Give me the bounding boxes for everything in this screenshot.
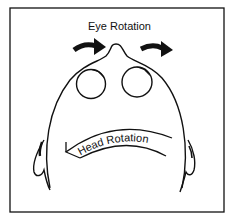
right-eye-rotation-arrow-icon: [141, 41, 173, 57]
left-eye-rotation-arrow-icon: [74, 38, 106, 55]
figure-frame: [10, 8, 224, 212]
head-rotation-label: Head Rotation: [76, 131, 150, 157]
eye-rotation-label: Eye Rotation: [88, 20, 151, 32]
left-ear-shade: [40, 142, 42, 156]
right-ear-icon: [180, 140, 195, 192]
diagram-canvas: Eye Rotation: [0, 0, 232, 220]
right-eye-icon: [122, 67, 152, 97]
head-eye-rotation-diagram: Eye Rotation: [0, 0, 232, 220]
head-outline-icon: [47, 44, 186, 188]
